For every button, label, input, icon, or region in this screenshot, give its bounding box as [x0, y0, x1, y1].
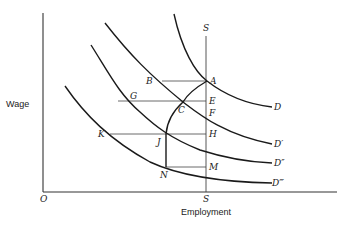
point-label-C: C: [178, 105, 185, 115]
point-label-M: M: [208, 162, 219, 172]
demand-curve-D: [174, 14, 272, 107]
demand-curve-D-prime: [105, 23, 272, 144]
point-label-E: E: [208, 96, 216, 106]
point-label-B: B: [145, 76, 153, 86]
labor-market-diagram: Wage Employment O S S D D′ D″ D‴ A B C E…: [0, 0, 350, 226]
x-axis-label: Employment: [181, 207, 232, 217]
point-label-A: A: [209, 76, 217, 86]
adjustment-path: [166, 81, 207, 167]
curve-label-D-triple-prime: D‴: [271, 178, 284, 188]
point-label-G: G: [130, 91, 137, 101]
point-label-N: N: [159, 170, 169, 180]
curve-label-D: D: [273, 102, 281, 112]
curve-label-D-double-prime: D″: [273, 158, 285, 168]
point-label-F: F: [208, 108, 216, 118]
point-label-J: J: [155, 137, 162, 147]
origin-label: O: [40, 194, 48, 204]
supply-label-top: S: [203, 23, 209, 33]
supply-label-bottom: S: [203, 194, 209, 204]
point-label-K: K: [97, 129, 106, 139]
curve-label-D-prime: D′: [273, 139, 283, 149]
y-axis-label: Wage: [6, 99, 29, 109]
point-label-H: H: [208, 129, 217, 139]
